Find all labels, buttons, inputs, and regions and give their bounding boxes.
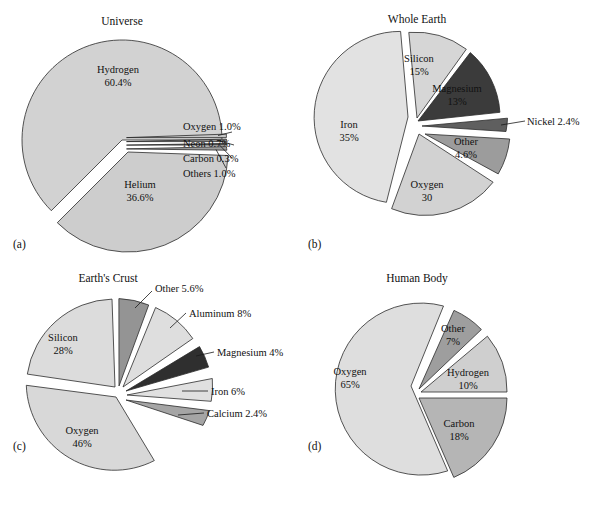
pie-label-helium-value: 36.6% [126,192,153,203]
pie-slice-calcium[interactable] [126,400,210,425]
pie-label-other-body-value: 7% [446,336,460,347]
panel-letter-d: (d) [308,440,322,453]
pie-callout-oxygen: Oxygen 1.0% [183,121,241,132]
chart-title-whole-earth: Whole Earth [388,13,447,25]
pie-label-hydrogen-body-name: Hydrogen [447,367,490,378]
chart-panel-whole-earth: Whole Earth Silicon 15% Magnesium 13% Ir… [295,0,590,256]
pie-slice-nickel[interactable] [422,118,508,131]
chart-panel-human-body: Human Body Oxygen 65% Other 7% Hydrogen … [295,255,590,511]
pie-callout-carbon: Carbon 0.3% [183,153,239,164]
pie-label-silicon-crust-name: Silicon [48,332,79,343]
pie-label-iron-name: Iron [340,119,358,130]
pie-slice-iron-crust[interactable] [127,379,213,402]
pie-callout-nickel: Nickel 2.4% [527,116,580,127]
pie-callout-magnesium-crust: Magnesium 4% [217,347,283,358]
chart-panel-universe: Universe Hydrogen 60.4% Helium 36.6% Oxy… [0,0,295,256]
pie-slice-iron[interactable] [314,31,408,202]
pie-label-silicon-name: Silicon [404,53,435,64]
pie-callout-iron-crust: Iron 6% [211,386,245,397]
pie-label-helium-name: Helium [124,179,156,190]
pie-label-iron-value: 35% [339,132,359,143]
pie-label-hydrogen-name: Hydrogen [97,64,140,75]
pie-label-hydrogen-value: 60.4% [104,77,131,88]
pie-label-carbon-body-value: 18% [449,431,469,442]
panel-letter-a: (a) [13,238,26,251]
pie-label-oxygen-body-name: Oxygen [333,366,367,377]
panel-letter-c: (c) [13,440,26,453]
chart-title-universe: Universe [101,15,143,27]
pie-callout-neon: Neon 0.7% [183,138,230,149]
pie-label-magnesium-value: 13% [447,96,467,107]
pie-label-oxygen-earth-name: Oxygen [410,179,444,190]
pie-callout-other-crust: Other 5.6% [155,283,204,294]
chart-panel-earths-crust: Earth's Crust Silicon 28% Oxygen 46% Oth… [0,255,295,511]
chart-title-earths-crust: Earth's Crust [78,272,138,284]
pie-label-magnesium-name: Magnesium [432,83,482,94]
chart-title-human-body: Human Body [386,272,448,285]
pie-label-other-name: Other [454,136,478,147]
panel-letter-b: (b) [308,238,322,251]
pie-label-oxygen-earth-value: 30 [422,192,433,203]
pie-label-oxygen-crust-name: Oxygen [65,425,99,436]
pie-label-other-body-name: Other [441,323,465,334]
pie-slice-silicon-crust[interactable] [27,299,115,387]
pie-label-oxygen-body-value: 65% [340,379,360,390]
pie-chart-figure: Universe Hydrogen 60.4% Helium 36.6% Oxy… [0,0,590,511]
pie-label-other-value: 4.6% [455,149,477,160]
pie-callout-others: Others 1.0% [183,168,236,179]
pie-label-silicon-crust-value: 28% [53,345,73,356]
pie-label-hydrogen-body-value: 10% [458,380,478,391]
pie-label-silicon-value: 15% [409,66,429,77]
pie-callout-aluminum: Aluminum 8% [189,308,251,319]
pie-label-oxygen-crust-value: 46% [72,438,92,449]
pie-callout-calcium: Calcium 2.4% [207,408,267,419]
pie-label-carbon-body-name: Carbon [444,418,476,429]
